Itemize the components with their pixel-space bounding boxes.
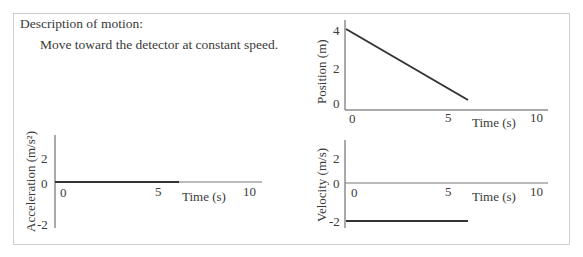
velocity-xtick-0: 0 [351, 185, 358, 200]
velocity-graph: 2 0 -2 0 5 10 Time (s) Velocity (m/s) [314, 140, 548, 229]
velocity-ylabel: Velocity (m/s) [314, 148, 329, 222]
position-xtick-5: 5 [445, 110, 452, 125]
velocity-ytick-0: 0 [333, 176, 340, 191]
acceleration-xtick-5: 5 [155, 184, 162, 199]
velocity-xlabel: Time (s) [472, 189, 516, 204]
acceleration-graph: 2 0 -2 0 5 10 Time (s) Acceleration (m/s… [23, 131, 262, 232]
position-graph: 4 2 0 0 5 10 Time (s) Position (m) [314, 20, 548, 130]
velocity-xtick-10: 10 [530, 184, 543, 199]
position-ytick-0: 0 [333, 96, 340, 111]
velocity-ytick-2: 2 [333, 151, 340, 166]
acceleration-ytick-0: 0 [41, 176, 48, 191]
graphs-canvas: 4 2 0 0 5 10 Time (s) Position (m) 2 0 -… [0, 0, 583, 257]
position-xlabel: Time (s) [472, 115, 516, 130]
acceleration-xlabel: Time (s) [182, 189, 226, 204]
velocity-ytick-neg2: -2 [329, 214, 340, 229]
position-line [346, 29, 468, 100]
acceleration-ylabel: Acceleration (m/s²) [23, 131, 38, 232]
acceleration-ytick-2: 2 [41, 151, 48, 166]
position-xtick-0: 0 [349, 111, 356, 126]
velocity-xtick-5: 5 [445, 184, 452, 199]
position-xtick-10: 10 [530, 110, 543, 125]
acceleration-xtick-10: 10 [243, 184, 256, 199]
acceleration-ytick-neg2: -2 [37, 217, 48, 232]
position-ylabel: Position (m) [314, 39, 329, 104]
position-ytick-4: 4 [333, 23, 340, 38]
acceleration-xtick-0: 0 [60, 185, 67, 200]
position-ytick-2: 2 [333, 61, 340, 76]
